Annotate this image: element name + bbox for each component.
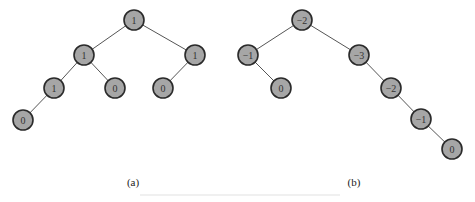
node-value: 1 bbox=[132, 15, 137, 26]
node-value: 0 bbox=[279, 83, 284, 94]
tree-node: 1 bbox=[44, 78, 64, 98]
tree-node: 1 bbox=[74, 45, 94, 65]
node-value: 1 bbox=[82, 50, 87, 61]
node-value: 0 bbox=[113, 83, 118, 94]
tree-node: −1 bbox=[238, 45, 258, 65]
node-value: −2 bbox=[386, 83, 397, 94]
caption-b: (b) bbox=[348, 176, 361, 188]
tree-node: −2 bbox=[381, 78, 401, 98]
tree-node: 0 bbox=[271, 78, 291, 98]
tree-node: 1 bbox=[124, 10, 144, 30]
node-value: −1 bbox=[243, 50, 254, 61]
tree-node: 0 bbox=[442, 139, 462, 159]
tree-node: −2 bbox=[292, 10, 312, 30]
node-value: 0 bbox=[21, 115, 26, 126]
tree-node: −3 bbox=[349, 45, 369, 65]
tree-node: 0 bbox=[13, 110, 33, 130]
tree-node: 0 bbox=[105, 78, 125, 98]
node-value: 0 bbox=[450, 144, 455, 155]
faded-caption-line bbox=[140, 194, 340, 196]
tree-node: 0 bbox=[153, 78, 173, 98]
node-value: 1 bbox=[193, 50, 198, 61]
node-value: 0 bbox=[161, 83, 166, 94]
node-value: −2 bbox=[297, 15, 308, 26]
caption-a: (a) bbox=[127, 176, 139, 188]
node-value: −3 bbox=[354, 50, 365, 61]
node-value: −1 bbox=[416, 114, 427, 125]
tree-node: −1 bbox=[411, 109, 431, 129]
node-value: 1 bbox=[52, 83, 57, 94]
tree-diagram: 1111000−2−1−30−2−10 bbox=[0, 0, 475, 202]
tree-nodes: 1111000−2−1−30−2−10 bbox=[13, 10, 462, 159]
tree-node: 1 bbox=[185, 45, 205, 65]
